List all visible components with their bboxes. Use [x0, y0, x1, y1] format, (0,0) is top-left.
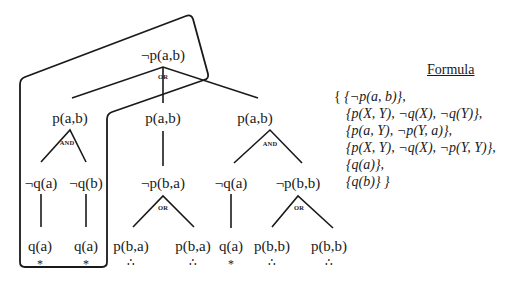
leaf-pba-1: p(b,a)	[113, 238, 148, 255]
clause: {q(a)},	[334, 156, 496, 173]
leaf-qa-2: q(a)	[74, 238, 98, 255]
leaf-pbb-1: p(b,b)	[254, 238, 290, 255]
clause: {q(b)} }	[334, 173, 496, 190]
closed-marker: *	[37, 257, 43, 271]
formula-open-brace: {	[334, 89, 344, 104]
node-not-pbb: ¬p(b,b)	[276, 175, 321, 192]
continuation-marker: ∴	[268, 255, 276, 269]
node-not-qa-left: ¬q(a)	[25, 175, 58, 192]
leaf-qa-3: q(a)	[219, 238, 243, 255]
closed-marker: *	[228, 257, 234, 271]
clause: {p(X, Y), ¬q(X), ¬p(Y, Y)},	[334, 139, 496, 156]
or-label-pba: OR	[158, 204, 168, 211]
and-label-left: AND	[60, 139, 75, 146]
continuation-marker: ∴	[127, 255, 135, 269]
clause: {p(X, Y), ¬q(X), ¬q(Y)},	[334, 105, 496, 122]
root-node: ¬p(a,b)	[141, 47, 185, 64]
node-left-pab: p(a,b)	[52, 110, 87, 127]
clause: { {¬p(a, b)},	[334, 88, 496, 105]
leaf-pbb-2: p(b,b)	[311, 238, 347, 255]
node-middle-pab: p(a,b)	[145, 110, 180, 127]
formula-title: Formula	[427, 62, 474, 78]
node-not-qa-right: ¬q(a)	[215, 175, 248, 192]
and-label-right: AND	[263, 140, 278, 147]
formula-clauses: { {¬p(a, b)}, {p(X, Y), ¬q(X), ¬q(Y)}, {…	[334, 88, 496, 190]
node-not-qb: ¬q(b)	[69, 175, 102, 192]
or-connector-pba	[133, 196, 194, 227]
node-not-pba: ¬p(b,a)	[141, 175, 185, 192]
or-connector-pbb	[272, 196, 333, 228]
clause: {p(a, Y), ¬p(Y, a)},	[334, 122, 496, 139]
or-label-pbb: OR	[294, 204, 304, 211]
node-right-pab: p(a,b)	[237, 110, 272, 127]
continuation-marker: ∴	[189, 255, 197, 269]
closed-marker: *	[83, 257, 89, 271]
leaf-qa-1: q(a)	[28, 238, 52, 255]
continuation-marker: ∴	[325, 255, 333, 269]
or-label-root: OR	[158, 73, 168, 80]
and-connector-left	[41, 130, 86, 162]
leaf-pba-2: p(b,a)	[175, 238, 210, 255]
